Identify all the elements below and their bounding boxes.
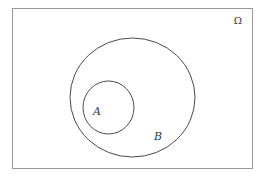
universe-rectangle	[13, 9, 253, 169]
venn-diagram: Ω B A	[0, 0, 268, 182]
universe-label: Ω	[234, 15, 242, 26]
set-a-label: A	[92, 105, 101, 118]
set-a-circle	[83, 81, 134, 134]
set-b-label: B	[153, 130, 162, 143]
